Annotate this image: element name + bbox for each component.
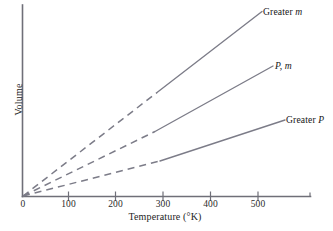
series-label-greater-p-prefix: Greater bbox=[286, 114, 318, 125]
y-axis-title: Volume bbox=[13, 70, 24, 130]
volume-vs-temperature-chart: 0 100 200 300 400 500 Temperature (°K) V… bbox=[0, 0, 333, 231]
series-greater-m bbox=[23, 12, 262, 197]
series-label-p-m-symbol: P, m bbox=[275, 60, 292, 71]
x-tick-label-400: 400 bbox=[203, 199, 218, 209]
series-label-greater-m: Greater m bbox=[263, 6, 302, 17]
series-label-greater-m-symbol: m bbox=[295, 6, 302, 17]
series-label-p-m: P, m bbox=[275, 60, 292, 71]
series-label-greater-p-symbol: P bbox=[318, 114, 324, 125]
series-label-greater-m-prefix: Greater bbox=[263, 6, 295, 17]
x-tick-label-300: 300 bbox=[156, 199, 171, 209]
chart-plot-area bbox=[0, 0, 333, 231]
x-axis-title: Temperature (°K) bbox=[128, 211, 201, 222]
x-tick-label-500: 500 bbox=[251, 199, 266, 209]
series-label-greater-p: Greater P bbox=[286, 114, 324, 125]
x-tick-label-100: 100 bbox=[61, 199, 76, 209]
x-tick-label-200: 200 bbox=[108, 199, 123, 209]
x-tick-label-0: 0 bbox=[21, 199, 26, 209]
series-p-m bbox=[23, 66, 273, 196]
